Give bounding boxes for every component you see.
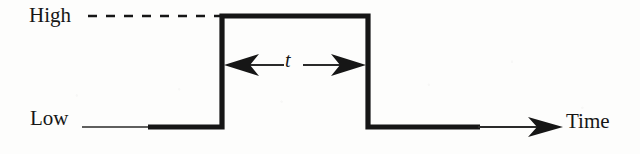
low-level-label: Low [30,108,69,129]
pulse-duration-label: t [285,50,291,70]
pulse-timing-figure: High Low t Time [0,0,640,154]
pulse-waveform-diagram [0,0,640,154]
high-level-label: High [29,5,71,26]
pulse-waveform-path [148,16,480,127]
time-axis-label: Time [566,111,610,132]
